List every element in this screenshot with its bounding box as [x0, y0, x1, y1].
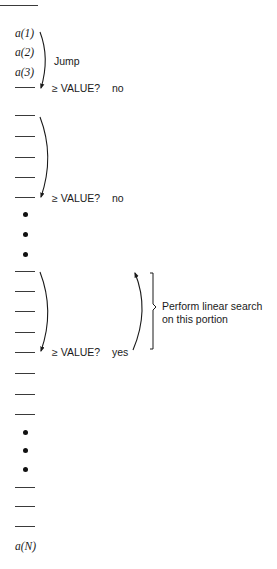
jump-arrow-icon — [40, 117, 48, 197]
jump-arrow-icon — [40, 272, 48, 351]
back-arrow-icon — [133, 273, 142, 350]
arrows-layer — [0, 0, 277, 569]
jump-arrow-icon — [40, 32, 45, 88]
brace-icon — [150, 273, 156, 349]
